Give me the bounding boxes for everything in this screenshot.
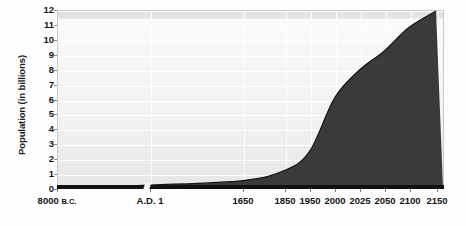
x-tick-mark — [360, 189, 361, 192]
y-tick-mark — [54, 85, 57, 86]
x-tick-mark — [285, 189, 286, 192]
y-tick-mark — [54, 100, 57, 101]
x-tick-label: 8000 B.C. — [38, 195, 77, 207]
x-tick-mark — [410, 189, 411, 192]
y-tick-mark — [54, 144, 57, 145]
x-tick-label: A.D. 1 — [137, 195, 164, 206]
population-area-series — [58, 11, 443, 188]
y-tick-label: 1 — [28, 169, 54, 179]
x-tick-label: 1850 — [274, 195, 295, 206]
y-tick-label: 10 — [28, 35, 54, 45]
y-axis-tick-labels: 0123456789101112 — [24, 0, 54, 226]
x-tick-label: 2150 — [426, 195, 447, 206]
y-tick-mark — [54, 70, 57, 71]
y-tick-label: 11 — [28, 20, 54, 30]
x-tick-label: 1650 — [232, 195, 253, 206]
y-tick-label: 5 — [28, 109, 54, 119]
x-tick-label: 2025 — [349, 195, 370, 206]
y-tick-label: 12 — [28, 5, 54, 15]
y-tick-label: 8 — [28, 65, 54, 75]
x-tick-label-era: B.C. — [61, 197, 76, 206]
x-tick-label-main: 8000 — [38, 195, 59, 206]
x-tick-mark — [243, 189, 244, 192]
y-tick-label: 0 — [28, 184, 54, 194]
x-tick-label: 2100 — [399, 195, 420, 206]
x-tick-mark — [310, 189, 311, 192]
y-tick-label: 2 — [28, 154, 54, 164]
x-tick-mark — [57, 189, 58, 192]
y-tick-mark — [54, 55, 57, 56]
y-tick-label: 4 — [28, 124, 54, 134]
y-tick-label: 6 — [28, 95, 54, 105]
x-tick-mark — [437, 189, 438, 192]
y-tick-label: 3 — [28, 139, 54, 149]
x-tick-label: 2050 — [374, 195, 395, 206]
y-tick-mark — [54, 174, 57, 175]
y-tick-mark — [54, 40, 57, 41]
y-tick-mark — [54, 25, 57, 26]
population-area-fill — [58, 11, 443, 188]
x-tick-label: 2000 — [324, 195, 345, 206]
y-tick-mark — [54, 189, 57, 190]
population-growth-chart: Population (in billions) 012345678910111… — [0, 0, 466, 226]
y-tick-mark — [54, 129, 57, 130]
x-tick-mark — [150, 189, 151, 192]
y-tick-label: 9 — [28, 50, 54, 60]
x-tick-mark — [335, 189, 336, 192]
y-tick-mark — [54, 114, 57, 115]
x-tick-mark — [385, 189, 386, 192]
plot-area — [57, 10, 444, 189]
x-tick-label: 1950 — [299, 195, 320, 206]
y-tick-label: 7 — [28, 80, 54, 90]
figure-caption — [8, 218, 458, 226]
y-tick-mark — [54, 10, 57, 11]
y-tick-mark — [54, 159, 57, 160]
